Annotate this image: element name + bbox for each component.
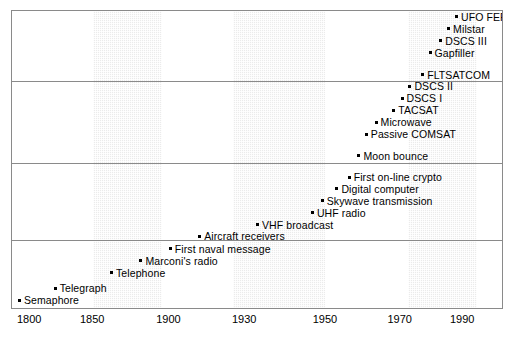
event-marker-icon <box>392 109 395 112</box>
event-label: Semaphore <box>24 294 79 306</box>
x-axis-tick-label: 1900 <box>156 313 180 325</box>
event-marker-icon <box>401 97 404 100</box>
timeline-event: First naval message <box>169 243 271 255</box>
event-marker-icon <box>198 235 201 238</box>
timeline-event: Microwave <box>375 116 432 128</box>
event-label: VHF broadcast <box>262 219 333 231</box>
x-axis-tick-label: 1930 <box>232 313 256 325</box>
event-label: UHF radio <box>317 207 366 219</box>
event-marker-icon <box>375 121 378 124</box>
event-marker-icon <box>439 39 442 42</box>
event-marker-icon <box>421 73 424 76</box>
event-label: First naval message <box>175 243 271 255</box>
event-label: Marconi's radio <box>145 255 217 267</box>
event-marker-icon <box>429 51 432 54</box>
timeline-event: Aircraft receivers <box>198 230 285 242</box>
event-label: Telegraph <box>60 282 107 294</box>
event-marker-icon <box>54 287 57 290</box>
event-label: DSCS I <box>407 92 443 104</box>
event-marker-icon <box>365 133 368 136</box>
timeline-event: FLTSATCOM <box>421 69 490 81</box>
event-marker-icon <box>256 223 259 226</box>
timeline-event: UHF radio <box>311 207 366 219</box>
timeline-event: Passive COMSAT <box>365 128 456 140</box>
event-label: Digital computer <box>341 183 418 195</box>
timeline-event: TACSAT <box>392 104 438 116</box>
event-marker-icon <box>18 299 21 302</box>
divider-2 <box>12 163 502 164</box>
event-label: Skywave transmission <box>327 195 433 207</box>
timeline-event: DSCS III <box>439 35 487 47</box>
event-label: DSCS II <box>414 80 453 92</box>
x-axis-tick-label: 1990 <box>450 313 474 325</box>
event-marker-icon <box>447 27 450 30</box>
event-marker-icon <box>335 187 338 190</box>
event-marker-icon <box>139 259 142 262</box>
event-marker-icon <box>311 211 314 214</box>
x-axis-tick-label: 1800 <box>17 313 41 325</box>
timeline-event: Skywave transmission <box>321 195 433 207</box>
timeline-event: First on-line crypto <box>348 171 442 183</box>
event-marker-icon <box>455 15 458 18</box>
timeline-event: DSCS I <box>401 92 443 104</box>
event-marker-icon <box>169 247 172 250</box>
x-axis-tick-label: 1970 <box>387 313 411 325</box>
timeline-event: DSCS II <box>408 80 453 92</box>
timeline-event: Digital computer <box>335 183 418 195</box>
timeline-event: VHF broadcast <box>256 219 333 231</box>
event-label: UFO FEP <box>461 11 503 23</box>
event-marker-icon <box>321 199 324 202</box>
event-label: Telephone <box>116 267 165 279</box>
event-label: Microwave <box>381 116 432 128</box>
x-axis-tick-label: 1850 <box>80 313 104 325</box>
timeline-event: UFO FEP <box>455 11 503 23</box>
event-label: First on-line crypto <box>354 171 442 183</box>
event-label: Moon bounce <box>363 150 428 162</box>
event-label: Aircraft receivers <box>204 230 285 242</box>
timeline-chart: UFO FEPMilstarDSCS IIIGapfillerFLTSATCOM… <box>0 0 516 338</box>
event-marker-icon <box>110 271 113 274</box>
event-marker-icon <box>357 154 360 157</box>
timeline-event: Telephone <box>110 267 165 279</box>
plot-area: UFO FEPMilstarDSCS IIIGapfillerFLTSATCOM… <box>11 10 503 309</box>
timeline-event: Milstar <box>447 23 485 35</box>
event-label: DSCS III <box>445 35 487 47</box>
timeline-event: Moon bounce <box>357 150 428 162</box>
event-marker-icon <box>408 85 411 88</box>
timeline-event: Gapfiller <box>429 47 475 59</box>
event-label: TACSAT <box>398 104 438 116</box>
event-label: FLTSATCOM <box>427 69 490 81</box>
event-label: Gapfiller <box>435 47 475 59</box>
x-axis: 1800185019001930195019701990 <box>11 310 503 332</box>
event-marker-icon <box>348 176 351 179</box>
timeline-event: Telegraph <box>54 282 107 294</box>
timeline-event: Marconi's radio <box>139 255 217 267</box>
x-axis-tick-label: 1950 <box>313 313 337 325</box>
event-label: Passive COMSAT <box>371 128 456 140</box>
band-1930s <box>233 11 325 308</box>
event-label: Milstar <box>453 23 485 35</box>
timeline-event: Semaphore <box>18 294 79 306</box>
